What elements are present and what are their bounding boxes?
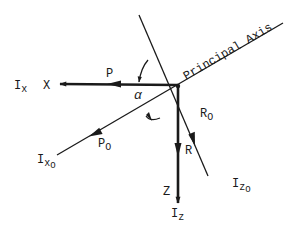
z-axis-label: Z <box>163 185 170 199</box>
x0-inertia-subsub: O <box>50 161 55 171</box>
r-force-label: R <box>185 144 192 158</box>
p0-sub: O <box>105 142 111 153</box>
x-inertia-sub: x <box>21 84 27 95</box>
p-force-arrow-icon <box>107 81 121 88</box>
z0-inertia-subsub: O <box>245 185 250 195</box>
x0-inertia-main: I <box>37 153 44 167</box>
r0-sub: O <box>207 112 213 123</box>
r0-main: R <box>200 107 207 121</box>
z-inertia-sub: z <box>178 212 184 223</box>
alpha-rotation-arrow-upper-icon <box>139 60 148 82</box>
x0-inertia-label: IxO <box>37 153 56 171</box>
principal-axis-diagram: Principal Axis X Ix P α RO R Z Iz PO IxO… <box>0 0 297 233</box>
z0-inertia-label: IzO <box>232 177 251 195</box>
alpha-label: α <box>134 88 143 103</box>
p0-main: P <box>98 137 105 151</box>
x-axis-label: X <box>43 79 50 93</box>
x-inertia-main: I <box>14 79 21 93</box>
z-inertia-label: Iz <box>171 207 184 223</box>
origin-point <box>176 84 180 88</box>
r-force-arrow-icon <box>175 143 182 157</box>
p-force-label: P <box>106 67 113 81</box>
x-inertia-label: Ix <box>14 79 27 95</box>
z0-axis-line <box>139 15 208 176</box>
z0-inertia-main: I <box>232 177 239 191</box>
p0-label: PO <box>98 137 111 153</box>
principal-axis-label: Principal Axis <box>181 20 275 83</box>
r0-label: RO <box>200 107 213 123</box>
z-inertia-main: I <box>171 207 178 221</box>
